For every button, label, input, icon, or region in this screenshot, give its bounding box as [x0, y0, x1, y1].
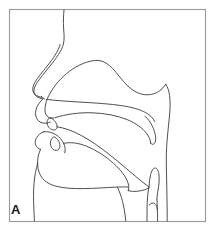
- alveolar-ridge: [45, 99, 54, 118]
- hard-palate: [46, 99, 154, 121]
- lower-incisor: [50, 137, 60, 150]
- tongue-dorsum: [64, 143, 129, 191]
- forehead-nose-profile: [34, 10, 64, 99]
- figure-panel: A: [0, 0, 216, 233]
- mandible-chin: [38, 149, 129, 188]
- hyoid-neck-contour: [118, 187, 126, 221]
- lower-lip: [35, 132, 43, 150]
- epiglottis: [149, 168, 159, 199]
- larynx-posterior-wall: [157, 199, 158, 221]
- soft-palate-velum: [55, 113, 150, 143]
- neck-profile: [34, 163, 38, 221]
- larynx-anterior-wall: [147, 187, 149, 221]
- nasal-cavity: [48, 60, 166, 98]
- panel-label: A: [11, 203, 20, 217]
- vocal-tract-diagram: [0, 0, 216, 233]
- vocal-fold-notch: [149, 203, 157, 209]
- upper-incisor: [47, 118, 57, 130]
- figure-frame: [10, 10, 206, 222]
- tongue-body: [57, 127, 149, 187]
- pharyngeal-wall: [166, 84, 170, 221]
- tongue-root: [128, 188, 149, 192]
